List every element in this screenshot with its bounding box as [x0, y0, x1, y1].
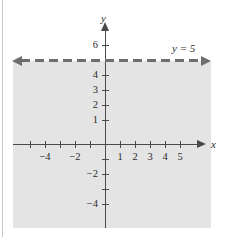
- boundary-line-y-equals-5: [21, 59, 203, 62]
- x-axis: [13, 144, 199, 145]
- x-tick-label-5: 5: [177, 152, 182, 163]
- y-tick-label-1: 1: [78, 115, 98, 126]
- x-tick-1: [120, 141, 121, 148]
- x-tick-3: [150, 141, 151, 148]
- y-tick-label-2: 2: [78, 100, 98, 111]
- y-tick-label-3: 3: [78, 85, 98, 96]
- x-tick--5: [30, 141, 31, 148]
- x-axis-label: x: [211, 139, 216, 150]
- y-axis-label: y: [101, 13, 106, 24]
- y-tick--3: [102, 189, 109, 190]
- coordinate-plane-figure: −4 −2 1 2 3 4 5 6 4 3 2 1 −2 −4 x y y = …: [0, 0, 227, 237]
- y-axis: [105, 28, 106, 228]
- y-tick--4: [102, 204, 109, 205]
- x-tick-label-4: 4: [162, 152, 167, 163]
- y-tick--1: [102, 159, 109, 160]
- boundary-line-arrow-right-icon: [201, 56, 211, 66]
- y-tick-1: [102, 120, 109, 121]
- y-tick-label--4: −4: [72, 199, 98, 210]
- x-tick-label-2: 2: [132, 152, 137, 163]
- x-tick--1: [90, 141, 91, 148]
- boundary-line-arrow-left-icon: [12, 56, 22, 66]
- y-tick-3: [102, 90, 109, 91]
- x-axis-arrow-right-icon: [197, 140, 206, 148]
- y-tick-label-6: 6: [78, 40, 98, 51]
- y-tick-6: [102, 45, 109, 46]
- y-tick-label--2: −2: [72, 169, 98, 180]
- x-tick--2: [75, 141, 76, 148]
- x-tick-label-3: 3: [147, 152, 152, 163]
- y-tick-4: [102, 75, 109, 76]
- x-tick--4: [45, 141, 46, 148]
- x-tick-label-1: 1: [117, 152, 122, 163]
- page-edge-rule: [2, 0, 3, 237]
- y-tick--2: [102, 174, 109, 175]
- x-tick-2: [135, 141, 136, 148]
- x-tick-label--4: −4: [39, 152, 50, 163]
- y-tick-2: [102, 105, 109, 106]
- x-tick-4: [165, 141, 166, 148]
- x-tick--3: [60, 141, 61, 148]
- y-tick-label-4: 4: [78, 70, 98, 81]
- x-tick-label--2: −2: [69, 152, 80, 163]
- boundary-line-label: y = 5: [172, 43, 195, 54]
- x-tick-5: [180, 141, 181, 148]
